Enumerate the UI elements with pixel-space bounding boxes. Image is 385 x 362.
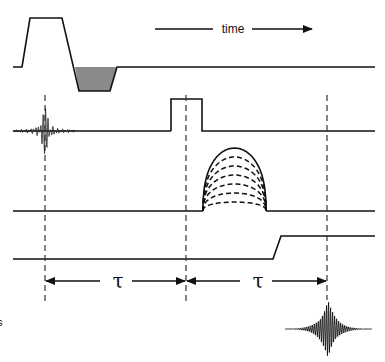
edge-label: s: [0, 316, 3, 328]
readout-gradient-waveform: [13, 236, 375, 259]
phase-lobe-step: [203, 202, 266, 211]
tau-interval-1: τ: [46, 269, 185, 293]
rf-excitation-sinc-pulse: [13, 108, 75, 154]
spin-echo-signal: [285, 302, 372, 355]
rf-row: [13, 99, 375, 154]
tau1-label: τ: [112, 269, 123, 293]
time-arrow: time: [155, 22, 312, 36]
rf-refocusing-pulse: [171, 99, 375, 131]
phase-encode-lobes: [203, 148, 266, 211]
tau-interval-2: τ: [187, 269, 326, 293]
tau2-label: τ: [252, 269, 263, 293]
phase-lobe-step: [203, 157, 266, 211]
phase-encode-row: [13, 148, 375, 211]
time-label: time: [222, 22, 245, 36]
pulse-sequence-diagram: time τ τ s: [0, 0, 385, 362]
